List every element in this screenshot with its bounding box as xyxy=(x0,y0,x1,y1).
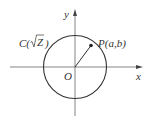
origin-label: O xyxy=(64,70,72,82)
x-axis-label: x xyxy=(135,70,141,82)
circle-c-label-prefix: C( xyxy=(19,37,31,50)
point-p xyxy=(89,44,93,48)
radius-segment xyxy=(75,46,91,68)
y-axis-label: y xyxy=(63,8,69,20)
point-p-label: P(a,b) xyxy=(97,37,126,50)
circle-c-label-arg: Z xyxy=(37,36,44,48)
y-axis-arrow-icon xyxy=(73,9,77,16)
complex-plane-diagram: y x O P(a,b) C( Z ) xyxy=(0,0,152,126)
circle-c-label-suffix: ) xyxy=(44,37,49,50)
x-axis-arrow-icon xyxy=(136,65,143,69)
